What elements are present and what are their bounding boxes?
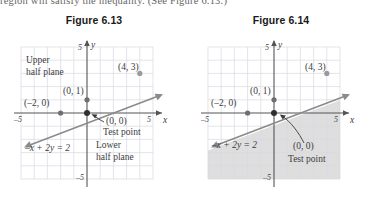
y-tick-positive-5: 5 <box>78 43 82 52</box>
figure-6-13-svg <box>0 27 188 193</box>
label-point-4-3: (4, 3) <box>305 62 326 73</box>
point-neg2-0 <box>58 110 63 115</box>
y-tick-positive-5: 5 <box>265 43 269 52</box>
x-tick-negative-5: –5 <box>201 115 209 124</box>
x-axis-label: x <box>163 115 167 125</box>
y-axis-label: y <box>91 40 95 50</box>
label-origin: (0, 0) <box>293 141 314 152</box>
x-axis-arrow <box>343 110 349 116</box>
point-0-1 <box>271 97 276 102</box>
label-equation: –x + 2y = 2 <box>25 143 70 154</box>
label-point-0-1: (0, 1) <box>250 86 271 97</box>
x-tick-negative-5: –5 <box>14 115 22 124</box>
running-body-text: region will satisfy the inequality. (See… <box>0 0 375 6</box>
figure-6-14-plot: (0, 1) (–2, 0) (4, 3) (0, 0) Test point … <box>187 27 375 193</box>
figure-6-13-plot: Upper half plane Lower half plane (0, 1)… <box>0 27 188 193</box>
figure-6-13: Figure 6.13 <box>0 14 188 197</box>
point-neg2-0 <box>245 110 250 115</box>
point-origin-test <box>271 110 277 116</box>
label-origin: (0, 0) <box>106 116 127 127</box>
y-axis-arrow <box>271 40 277 46</box>
label-equation: –x + 2y = 2 <box>212 140 257 151</box>
figure-6-14-title: Figure 6.14 <box>187 14 375 27</box>
x-tick-positive-5: 5 <box>334 115 338 124</box>
point-0-1 <box>84 97 89 102</box>
label-point-neg2-0: (–2, 0) <box>211 98 236 109</box>
label-test-point: Test point <box>288 154 326 165</box>
figure-6-13-title: Figure 6.13 <box>0 14 188 27</box>
x-tick-positive-5: 5 <box>147 115 151 124</box>
figure-page: region will satisfy the inequality. (See… <box>0 0 375 197</box>
figure-6-14: Figure 6.14 <box>187 14 375 197</box>
upper-half-plane-label: Upper half plane <box>26 55 64 78</box>
y-tick-negative-5: –5 <box>263 173 271 182</box>
label-test-point: Test point <box>103 127 141 138</box>
y-axis-arrow <box>84 40 90 46</box>
label-point-0-1: (0, 1) <box>63 86 84 97</box>
figure-6-14-svg <box>187 27 375 193</box>
x-axis-label: x <box>350 115 354 125</box>
y-axis-label: y <box>278 40 282 50</box>
point-origin-test <box>84 110 90 116</box>
label-point-4-3: (4, 3) <box>118 62 139 73</box>
label-point-neg2-0: (–2, 0) <box>24 98 49 109</box>
x-axis-arrow <box>156 110 162 116</box>
lower-half-plane-label: Lower half plane <box>96 140 134 163</box>
y-tick-negative-5: –5 <box>76 173 84 182</box>
